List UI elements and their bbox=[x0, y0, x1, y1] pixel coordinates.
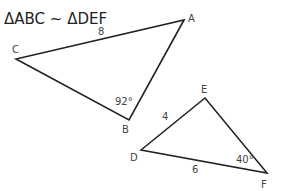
side-label-ca: 8 bbox=[98, 26, 104, 37]
vertex-label-b: B bbox=[122, 124, 129, 135]
similar-triangles-diagram: ΔABC ~ ΔDEF A B C 8 92° E D F 4 6 40° bbox=[0, 0, 282, 191]
vertex-label-a: A bbox=[188, 13, 195, 24]
vertex-label-e: E bbox=[201, 84, 207, 95]
angle-label-f: 40° bbox=[236, 154, 254, 165]
angle-label-b: 92° bbox=[115, 96, 133, 107]
side-label-df: 6 bbox=[192, 164, 198, 175]
similarity-statement: ΔABC ~ ΔDEF bbox=[4, 10, 107, 28]
vertex-label-c: C bbox=[12, 44, 19, 55]
vertex-label-d: D bbox=[130, 152, 138, 163]
side-label-de: 4 bbox=[162, 111, 168, 122]
vertex-label-f: F bbox=[261, 179, 267, 190]
